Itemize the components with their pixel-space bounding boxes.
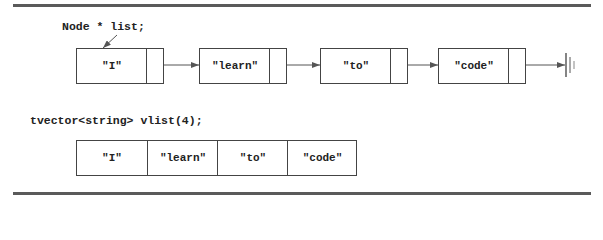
node-value: "learn" <box>200 49 270 83</box>
vector-cell-0: "I" <box>77 141 147 175</box>
bottom-rule <box>13 192 591 195</box>
node-value: "code" <box>439 49 509 83</box>
node-value: "to" <box>321 49 391 83</box>
list-node-1: "I" <box>76 48 164 84</box>
null-ground-icon <box>566 53 574 77</box>
list-node-3: "to" <box>320 48 408 84</box>
node-next-field <box>269 49 270 83</box>
vector-cell-1: "learn" <box>147 141 218 175</box>
head-pointer-arrow <box>103 35 117 48</box>
list-node-2: "learn" <box>199 48 287 84</box>
vector-cell-2: "to" <box>217 141 288 175</box>
node-next-field <box>390 49 391 83</box>
list-node-4: "code" <box>438 48 526 84</box>
vector-cell-3: "code" <box>287 141 357 175</box>
node-next-field <box>508 49 509 83</box>
vector-declaration: tvector<string> vlist(4); <box>30 114 203 127</box>
vector-box: "I" "learn" "to" "code" <box>76 140 357 176</box>
node-value: "I" <box>77 49 147 83</box>
node-next-field <box>146 49 147 83</box>
